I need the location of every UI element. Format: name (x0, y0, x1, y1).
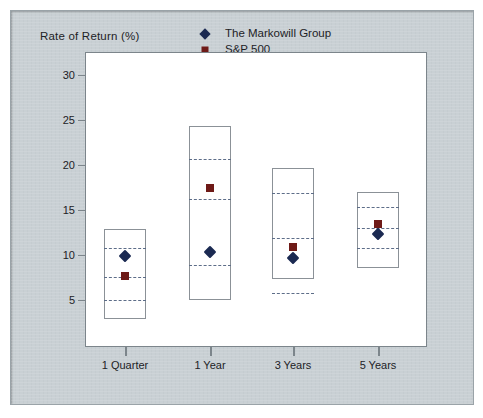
square-marker-icon (289, 243, 297, 251)
y-tick-mark (78, 120, 85, 122)
y-tick-mark (78, 165, 85, 167)
quartile-line (272, 193, 314, 194)
quartile-line (357, 207, 399, 208)
y-axis-title: Rate of Return (%) (40, 30, 139, 42)
x-tick-label: 1 Year (194, 359, 225, 371)
x-tick-mark (210, 347, 212, 356)
square-marker-icon (374, 220, 382, 228)
x-tick-label: 5 Years (360, 359, 397, 371)
legend-label: The Markowill Group (225, 27, 331, 39)
y-tick-label: 15 (53, 204, 75, 216)
square-marker-icon (121, 272, 129, 280)
y-tick-label: 25 (53, 114, 75, 126)
y-tick-label: 20 (53, 159, 75, 171)
quartile-line (272, 293, 314, 294)
quartile-line (104, 300, 146, 301)
x-tick-mark (378, 347, 380, 356)
x-tick-label: 3 Years (275, 359, 312, 371)
x-tick-label: 1 Quarter (102, 359, 148, 371)
chart-screenshot: Rate of Return (%) The Markowill Group S… (0, 0, 483, 418)
quartile-line (272, 238, 314, 239)
y-tick-mark (78, 210, 85, 212)
y-tick-mark (78, 75, 85, 77)
quartile-line (357, 248, 399, 249)
x-tick-mark (293, 347, 295, 356)
quartile-line (104, 248, 146, 249)
square-marker-icon (206, 184, 214, 192)
x-tick-mark (125, 347, 127, 356)
quartile-line (189, 159, 231, 160)
quartile-line (189, 265, 231, 266)
quartile-line (189, 199, 231, 200)
range-box (189, 126, 231, 300)
y-tick-mark (78, 255, 85, 257)
y-tick-label: 10 (53, 249, 75, 261)
y-tick-label: 5 (53, 294, 75, 306)
y-tick-label: 30 (53, 69, 75, 81)
y-tick-mark (78, 300, 85, 302)
